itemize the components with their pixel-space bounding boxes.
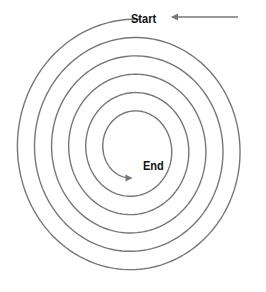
end-label: End: [143, 158, 164, 173]
spiral-diagram: [0, 0, 266, 292]
start-label: Start: [131, 11, 156, 26]
spiral-line: [17, 19, 240, 270]
